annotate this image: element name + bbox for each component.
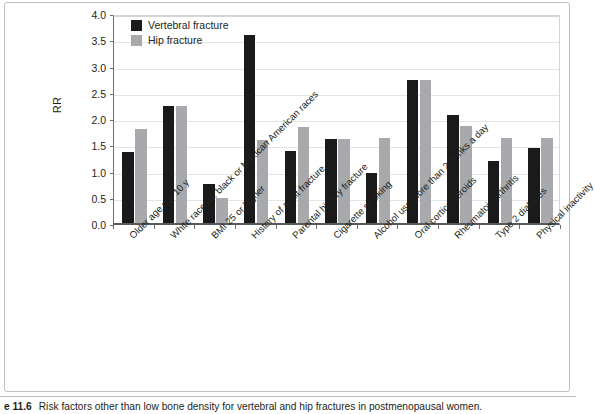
x-tick-mark — [479, 225, 480, 229]
y-axis-title: RR — [51, 97, 63, 114]
bar — [528, 148, 540, 223]
y-tick-label: 1.0 — [91, 167, 106, 178]
bar — [176, 106, 188, 223]
legend-swatch-icon — [131, 35, 142, 46]
y-tick-label: 3.5 — [91, 36, 106, 47]
figure-caption: e 11.6 Risk factors other than low bone … — [0, 400, 576, 414]
figure-number: e 11.6 — [0, 400, 32, 413]
bar — [122, 152, 134, 223]
legend-label: Hip fracture — [148, 35, 202, 46]
x-tick-mark — [235, 225, 236, 229]
y-tick-label: 1.5 — [91, 141, 106, 152]
y-tick-label: 3.0 — [91, 62, 106, 73]
x-tick-mark — [316, 225, 317, 229]
bar-group — [114, 16, 155, 223]
x-tick-mark — [194, 225, 195, 229]
y-tick-label: 0.5 — [91, 194, 106, 205]
x-tick-mark — [154, 225, 155, 229]
legend-label: Vertebral fracture — [148, 20, 229, 31]
y-tick-label: 4.0 — [91, 10, 106, 21]
y-tick-label: 2.0 — [91, 115, 106, 126]
x-tick-mark — [113, 225, 114, 229]
x-tick-mark — [397, 225, 398, 229]
x-tick-mark — [560, 225, 561, 229]
y-tick-label: 0.0 — [91, 220, 106, 231]
x-tick-mark — [438, 225, 439, 229]
x-tick-mark — [276, 225, 277, 229]
caption-divider — [0, 396, 576, 397]
legend-swatch-icon — [131, 20, 142, 31]
bar — [135, 129, 147, 224]
bar — [420, 80, 432, 223]
legend-entry: Vertebral fracture — [131, 19, 229, 32]
x-tick-mark — [519, 225, 520, 229]
legend-entry: Hip fracture — [131, 34, 229, 47]
legend: Vertebral fractureHip fracture — [131, 19, 229, 47]
bar — [541, 138, 553, 223]
x-tick-mark — [357, 225, 358, 229]
figure-caption-text: Risk factors other than low bone density… — [39, 400, 482, 413]
y-tick-label: 2.5 — [91, 89, 106, 100]
